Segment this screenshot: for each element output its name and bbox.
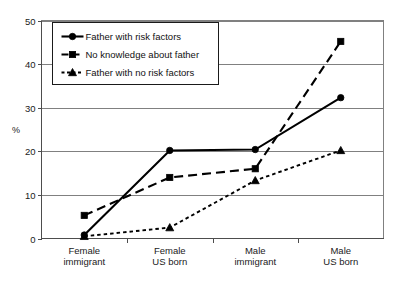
legend-0-circle-marker [69, 33, 75, 39]
y-tick-label-20: 20 [25, 146, 36, 157]
x-axis-labels-group: FemaleimmigrantFemaleUS bornMaleimmigran… [63, 239, 358, 267]
series-2-point-2-triangle-marker [251, 177, 259, 184]
series-line-0 [84, 98, 341, 235]
series-0-point-3-circle-marker [338, 94, 344, 100]
x-axis-label-2: Maleimmigrant [234, 245, 276, 267]
series-line-2 [84, 150, 341, 236]
legend-label-2: Father with no risk factors [86, 67, 195, 78]
series-1-point-3-square-marker [338, 38, 344, 44]
series-0-point-1-circle-marker [167, 147, 173, 153]
y-tick-label-40: 40 [25, 59, 36, 70]
series-2-point-1-triangle-marker [166, 224, 174, 231]
series-1-point-1-square-marker [167, 174, 173, 180]
y-tick-label-10: 10 [25, 190, 36, 201]
legend-label-0: Father with risk factors [86, 31, 182, 42]
x-axis-label-1: FemaleUS born [152, 245, 187, 267]
y-axis-title: % [12, 125, 20, 135]
chart-canvas: 01020304050%FemaleimmigrantFemaleUS born… [0, 0, 399, 284]
series-2-point-3-triangle-marker [337, 146, 345, 153]
series-1-point-0-square-marker [81, 212, 87, 218]
series-0-point-2-circle-marker [252, 146, 258, 152]
y-tick-label-50: 50 [25, 16, 36, 27]
y-tick-label-30: 30 [25, 103, 36, 114]
x-axis-label-3: MaleUS born [323, 245, 358, 267]
series-1-point-2-square-marker [252, 166, 258, 172]
series-2 [80, 146, 345, 239]
series-0 [81, 94, 344, 238]
x-axis-label-0: Femaleimmigrant [63, 245, 105, 267]
line-chart: 01020304050%FemaleimmigrantFemaleUS born… [0, 0, 399, 284]
y-tick-label-0: 0 [30, 234, 35, 245]
legend: Father with risk factorsNo knowledge abo… [53, 23, 219, 85]
legend-label-1: No knowledge about father [86, 49, 200, 60]
legend-1-square-marker [69, 51, 75, 57]
